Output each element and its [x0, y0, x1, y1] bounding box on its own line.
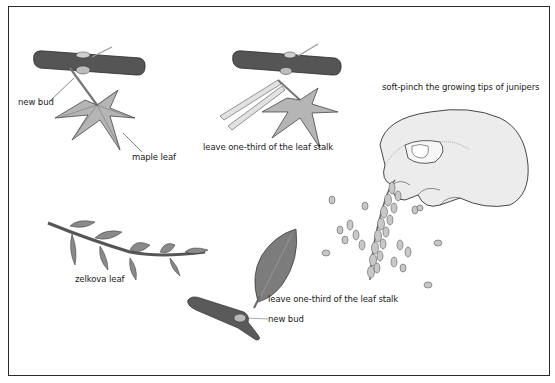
maple-scissors-illustration [220, 44, 341, 148]
label-zelkova-leave-stalk: leave one-third of the leaf stalk [268, 294, 398, 304]
label-zelkova-new-bud: new bud [268, 314, 304, 324]
label-maple-new-bud: new bud [18, 97, 54, 107]
zelkova-branch-illustration [48, 221, 208, 280]
label-zelkova-leaf: zelkova leaf [75, 274, 124, 284]
illustration-canvas [0, 0, 555, 383]
label-maple-leave-stalk: leave one-third of the leaf stalk [203, 142, 333, 152]
hand-illustration [380, 110, 528, 207]
label-maple-leaf: maple leaf [132, 152, 176, 162]
label-juniper-pinch: soft-pinch the growing tips of junipers [382, 82, 539, 92]
